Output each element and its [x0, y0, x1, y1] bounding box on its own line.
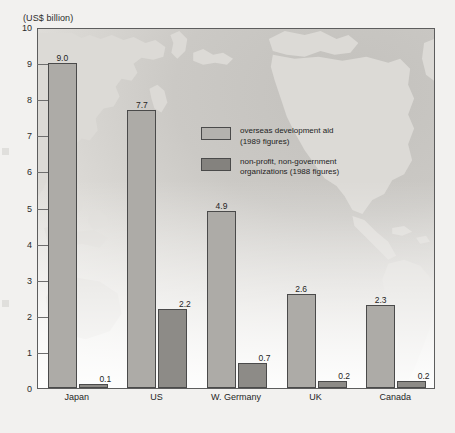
bar-oda	[48, 63, 77, 388]
y-axis-tick-label: 7	[27, 131, 32, 141]
y-axis-tick-label: 3	[27, 276, 32, 286]
y-axis-tick-label: 0	[27, 384, 32, 394]
bar-oda	[287, 294, 316, 388]
bar-value-label: 0.2	[338, 371, 350, 381]
legend-label-oda-line2: (1989 figures)	[240, 137, 333, 148]
x-axis-label-japan: Japan	[65, 392, 90, 402]
legend-label-ngo-line2: organizations (1988 figures)	[240, 167, 339, 178]
bar-ngo	[79, 384, 108, 388]
y-axis-tick-label: 2	[27, 312, 32, 322]
x-axis-label-canada: Canada	[379, 392, 411, 402]
bar-oda	[366, 305, 395, 388]
y-axis-tick-mark	[37, 172, 48, 173]
bar-ngo	[158, 309, 187, 388]
bar-oda	[207, 211, 236, 388]
y-axis-unit-label: (US$ billion)	[23, 13, 73, 23]
legend-item-oda: overseas development aid (1989 figures)	[201, 126, 339, 148]
bar-value-label: 2.2	[179, 299, 191, 309]
bar-value-label: 9.0	[56, 53, 68, 63]
legend-label-oda-line1: overseas development aid	[240, 126, 333, 137]
legend-swatch-ngo	[201, 158, 231, 171]
legend-item-ngo: non-profit, non-government organizations…	[201, 157, 339, 179]
y-axis-tick-mark	[37, 353, 48, 354]
x-axis-labels: JapanUSW. GermanyUKCanada	[37, 392, 435, 408]
bar-value-label: 0.1	[99, 374, 111, 384]
x-axis-label-us: US	[150, 392, 163, 402]
page-edge-artifact	[2, 300, 9, 307]
y-axis-tick-label: 8	[27, 95, 32, 105]
bar-ngo	[238, 363, 267, 388]
bar-oda	[127, 110, 156, 388]
bar-value-label: 0.2	[418, 371, 430, 381]
chart-legend: overseas development aid (1989 figures) …	[201, 126, 339, 187]
y-axis-tick-mark	[37, 245, 48, 246]
y-axis-tick-label: 9	[27, 59, 32, 69]
x-axis-label-w-germany: W. Germany	[211, 392, 261, 402]
y-axis-tick-label: 10	[22, 23, 32, 33]
y-axis-tick-label: 5	[27, 204, 32, 214]
bar-value-label: 0.7	[259, 353, 271, 363]
chart-figure: (US$ billion)	[0, 0, 455, 433]
x-axis-label-uk: UK	[309, 392, 322, 402]
bar-value-label: 2.6	[295, 284, 307, 294]
bar-ngo	[318, 381, 347, 388]
y-axis-tick-mark	[37, 209, 48, 210]
y-axis-tick-mark	[37, 100, 48, 101]
y-axis-tick-label: 1	[27, 348, 32, 358]
page-edge-artifact	[2, 148, 9, 155]
bar-value-label: 2.3	[375, 295, 387, 305]
bar-ngo	[397, 381, 426, 388]
legend-label-ngo-line1: non-profit, non-government	[240, 157, 339, 168]
legend-swatch-oda	[201, 127, 231, 140]
y-axis-tick-mark	[37, 317, 48, 318]
bar-value-label: 7.7	[136, 100, 148, 110]
y-axis-tick-mark	[37, 136, 48, 137]
y-axis-tick-label: 4	[27, 240, 32, 250]
plot-area: overseas development aid (1989 figures) …	[37, 28, 435, 389]
y-axis-tick-mark	[37, 64, 48, 65]
bar-value-label: 4.9	[216, 201, 228, 211]
y-axis-tick-label: 6	[27, 167, 32, 177]
y-axis-tick-mark	[37, 281, 48, 282]
